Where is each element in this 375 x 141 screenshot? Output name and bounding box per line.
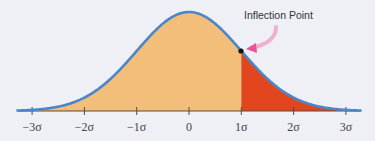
x-tick-label: −2σ	[75, 120, 95, 134]
pointer-arrowhead-icon	[246, 43, 257, 53]
normal-distribution-chart: −3σ−2σ−1σ01σ2σ3σ Inflection Point	[0, 0, 375, 141]
x-tick-label: 0	[186, 120, 192, 134]
inflection-point-marker	[238, 48, 243, 53]
x-tick-label: −3σ	[22, 120, 42, 134]
x-tick-label: 3σ	[340, 120, 353, 134]
inflection-point-label: Inflection Point	[244, 9, 313, 21]
x-tick-label: 2σ	[287, 120, 300, 134]
x-tick-label: −1σ	[127, 120, 147, 134]
x-tick-label: 1σ	[235, 120, 248, 134]
